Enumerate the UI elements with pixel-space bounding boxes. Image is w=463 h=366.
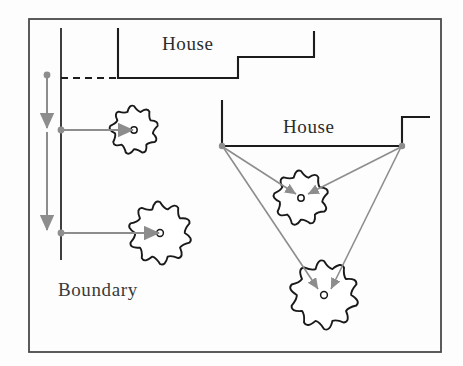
- diagram-canvas: HouseHouseBoundary: [0, 0, 463, 366]
- tree-trunk-marker: [321, 292, 328, 299]
- tree-setback-diagram: HouseHouseBoundary: [0, 0, 463, 366]
- diagram-background: [0, 0, 463, 366]
- house-top-label: House: [162, 33, 214, 54]
- boundary-label: Boundary: [58, 279, 138, 300]
- tree-trunk-marker: [298, 195, 304, 201]
- house-right-label: House: [283, 116, 335, 137]
